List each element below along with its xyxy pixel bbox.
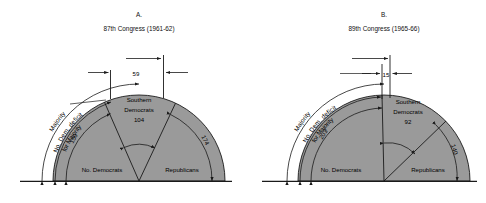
- panel-a-label-nodem: No. Democrats: [82, 166, 123, 173]
- semicircle-seat-diagrams: A. 87th Congress (1961-62) 159 174 No. D…: [0, 0, 486, 203]
- panel-a-label-southern-2: Democrats: [124, 106, 153, 113]
- figure-canvas: A. 87th Congress (1961-62) 159 174 No. D…: [0, 0, 486, 203]
- panel-b-label-southern-2: Democrats: [393, 108, 422, 115]
- panel-a-value-southern: 104: [134, 116, 145, 123]
- panel-a-letter: A.: [136, 11, 142, 18]
- panel-b-letter: B.: [381, 11, 387, 18]
- panel-b: B. 89th Congress (1965-66) 203 140 No. D…: [262, 11, 477, 181]
- panel-a-deficit-value: 59: [133, 70, 140, 77]
- panel-a-label-rep: Republicans: [165, 166, 199, 173]
- panel-b-deficit-value: 15: [383, 71, 390, 78]
- panel-b-title: 89th Congress (1965-66): [348, 25, 419, 33]
- panel-a-title: 87th Congress (1961-62): [103, 25, 174, 33]
- panel-b-label-nodem: No. Democrats: [321, 166, 362, 173]
- panel-b-value-southern: 92: [405, 118, 412, 125]
- panel-a-label-southern: Southern: [127, 96, 152, 103]
- panel-b-label-southern: Southern: [396, 98, 421, 105]
- panel-b-label-rep: Republicans: [411, 166, 445, 173]
- panel-a-deficit-leader: [70, 100, 106, 104]
- panel-a: A. 87th Congress (1961-62) 159 174 No. D…: [20, 11, 232, 181]
